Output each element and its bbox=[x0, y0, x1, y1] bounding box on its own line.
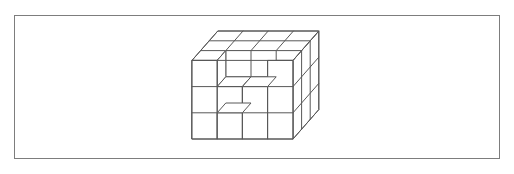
figure-frame bbox=[14, 15, 500, 159]
figure-canvas bbox=[0, 0, 514, 174]
